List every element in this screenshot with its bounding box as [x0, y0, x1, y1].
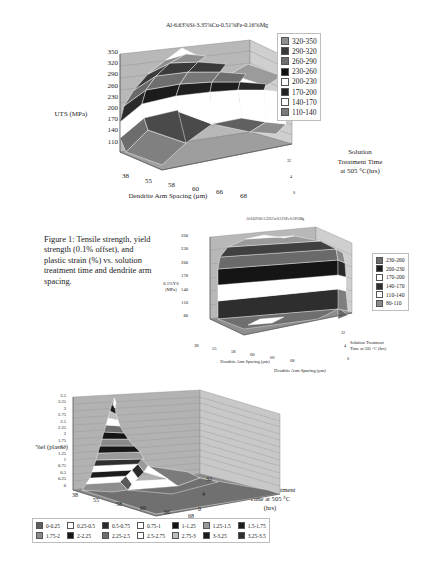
legend-swatch	[281, 68, 289, 76]
chart-ys-z-tick: 230	[172, 246, 188, 251]
chart-elongation-y-tick: 0	[198, 506, 201, 512]
legend-item[interactable]: 230-260	[376, 256, 405, 265]
legend-label: 110-140	[386, 292, 404, 298]
legend-swatch	[281, 47, 289, 55]
legend-label: 1-1.25	[182, 523, 196, 529]
chart-ys: Al-6.63%Si-3.35%Cu-0.51%Fe-0.16%Mg 0.1%Y…	[150, 215, 434, 370]
chart-ys-x-axis-title-repeat: Dendrite Arm Spacing (µm)	[240, 368, 360, 373]
chart-elongation-y-tick: 4	[202, 491, 205, 497]
chart-uts-x-tick: 58	[168, 181, 175, 189]
legend-item[interactable]: 230-260	[281, 67, 317, 77]
legend-item[interactable]: 2.25-2.5	[102, 531, 130, 540]
chart-ys-z-tick: 170	[172, 273, 188, 278]
chart-uts-y-axis-title-line3: at 505 °C(hrs)	[300, 167, 420, 177]
chart-ys-y-tick: 0	[347, 356, 349, 361]
legend-item[interactable]: 1-1.25	[172, 521, 196, 530]
legend-label: 230-260	[386, 257, 405, 263]
chart-elongation-z-tick: 0	[40, 483, 66, 489]
legend-item[interactable]: 0.5-0.75	[102, 521, 130, 530]
legend-item[interactable]: 260-290	[281, 56, 317, 66]
legend-swatch	[36, 532, 43, 539]
legend-label: 2.25-2.5	[112, 533, 130, 539]
chart-elongation-x-tick: 55	[93, 497, 99, 503]
legend-swatch	[172, 532, 179, 539]
legend-swatch	[376, 257, 383, 264]
legend-item[interactable]: 0.75-1	[137, 521, 165, 530]
legend-swatch	[376, 274, 383, 281]
legend-swatch	[203, 522, 210, 529]
legend-item[interactable]: 110-140	[376, 290, 405, 299]
chart-uts-x-tick: 60	[192, 185, 199, 193]
chart-uts-z-ticks: 350 320 290 260 230 200 170 140 110	[92, 48, 118, 146]
chart-uts-legend: 320-350 290-320 260-290 230-260 200-230 …	[277, 33, 321, 121]
legend-label: 200-230	[386, 266, 405, 272]
chart-ys-x-tick: 60	[250, 352, 255, 357]
legend-label: 0.5-0.75	[112, 523, 130, 529]
legend-label: 170-200	[292, 88, 317, 97]
legend-label: 0.25-0.5	[77, 523, 95, 529]
chart-ys-x-axis-title: Dendrite Arm Spacing (µm)	[190, 359, 300, 364]
chart-ys-z-tick: 140	[172, 287, 188, 292]
chart-uts-z-tick: 230	[92, 93, 118, 101]
legend-item[interactable]: 320-350	[281, 36, 317, 46]
legend-label: 200-230	[292, 77, 317, 86]
chart-uts-y-axis-title-line2: Treatment Time	[300, 158, 420, 168]
legend-item[interactable]: 200-230	[281, 77, 317, 87]
chart-ys-z-tick: 80	[172, 313, 188, 318]
legend-label: 1.25-1.5	[213, 523, 231, 529]
legend-swatch	[281, 88, 289, 96]
legend-item[interactable]: 2.5-2.75	[137, 531, 165, 540]
legend-swatch	[172, 522, 179, 529]
legend-label: 0-0.25	[46, 523, 60, 529]
legend-item[interactable]: 110-140	[281, 107, 317, 117]
legend-item[interactable]: 170-200	[281, 87, 317, 97]
legend-swatch	[102, 532, 109, 539]
chart-ys-x-tick: 66	[270, 355, 275, 360]
legend-item[interactable]: 1.75-2	[36, 531, 60, 540]
chart-uts-z-tick: 320	[92, 59, 118, 67]
chart-uts-z-tick: 200	[92, 104, 118, 112]
legend-label: 320-350	[292, 37, 317, 46]
legend-label: 290-320	[292, 47, 317, 56]
chart-uts-title: Al-6.63%Si-3.35%Cu-0.51%Fe-0.16%Mg	[107, 21, 327, 28]
legend-item[interactable]: 1.5-1.75	[238, 521, 266, 530]
legend-item[interactable]: 140-170	[281, 97, 317, 107]
chart-elongation-x-tick: 38	[72, 492, 78, 498]
chart-uts-z-tick: 140	[92, 126, 118, 134]
chart-ys-z-ticks: 260 230 200 170 140 110 80	[172, 233, 188, 318]
legend-item[interactable]: 140-170	[376, 282, 405, 291]
legend-item[interactable]: 3-3.25	[203, 531, 231, 540]
chart-ys-x-tick: 38	[194, 343, 199, 348]
legend-item[interactable]: 170-200	[376, 273, 405, 282]
legend-swatch	[203, 532, 210, 539]
legend-swatch	[376, 283, 383, 290]
chart-ys-legend: 230-260 200-230 170-200 140-170 110-140 …	[372, 253, 409, 311]
legend-item[interactable]: 80-110	[376, 299, 405, 308]
chart-elongation-x-tick: 58	[116, 501, 122, 507]
chart-elongation-legend: 0-0.25 0.25-0.5 0.5-0.75 0.75-1 1-1.25	[32, 518, 270, 543]
legend-swatch	[281, 37, 289, 45]
chart-elongation-z-ticks: 3.5 3.25 3 2.75 2.5 2.25 2 1.75 1.5 1.25…	[40, 393, 66, 489]
legend-item[interactable]: 3.25-3.5	[238, 531, 266, 540]
chart-elongation-x-tick: 66	[164, 509, 170, 515]
chart-uts-y-tick: 4	[290, 174, 292, 179]
legend-item[interactable]: 2-2.25	[67, 531, 95, 540]
legend-item[interactable]: 1.25-1.5	[203, 521, 231, 530]
legend-label: 140-170	[292, 98, 317, 107]
legend-item[interactable]: 0-0.25	[36, 521, 60, 530]
legend-label: 140-170	[386, 283, 405, 289]
figure-caption: Figure 1: Tensile strength, yield streng…	[44, 235, 156, 287]
chart-ys-z-tick: 110	[172, 300, 188, 305]
chart-uts-x-tick: 55	[145, 177, 152, 185]
legend-item[interactable]: 290-320	[281, 46, 317, 56]
chart-ys-y-tick: 4	[344, 343, 346, 348]
chart-uts-z-tick: 110	[92, 138, 118, 146]
legend-item[interactable]: 200-230	[376, 265, 405, 274]
chart-uts-y-axis-title: Solution Treatment Time at 505 °C(hrs)	[300, 148, 420, 177]
legend-item[interactable]: 0.25-0.5	[67, 521, 95, 530]
legend-label: 230-260	[292, 67, 317, 76]
legend-item[interactable]: 2.75-3	[172, 531, 196, 540]
legend-swatch	[281, 78, 289, 86]
chart-uts-x-tick: 68	[240, 192, 247, 200]
chart-uts-z-tick: 170	[92, 115, 118, 123]
